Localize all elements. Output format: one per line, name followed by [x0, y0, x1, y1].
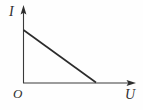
- characteristic-line: [24, 30, 97, 83]
- iu-characteristic-figure: I U O: [0, 0, 143, 110]
- x-axis-label: U: [125, 88, 135, 102]
- origin-label: O: [13, 87, 22, 100]
- y-axis-label: I: [9, 5, 14, 19]
